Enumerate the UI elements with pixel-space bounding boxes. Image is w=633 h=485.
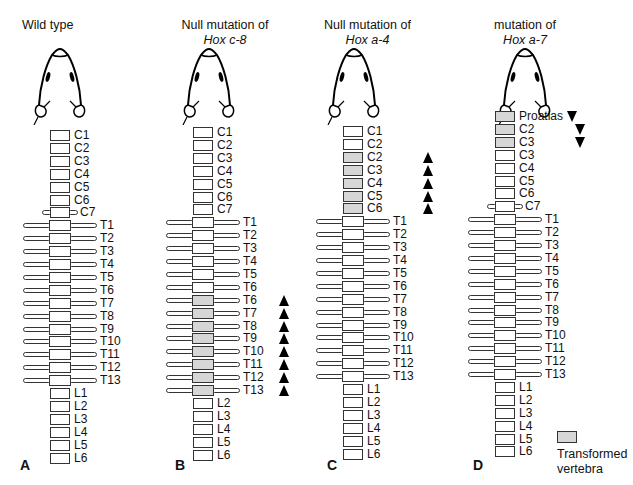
rib-right xyxy=(514,217,542,222)
vertebra-label: T4 xyxy=(393,254,407,266)
vertebra-label: T10 xyxy=(545,329,566,341)
vertebra-thoracic xyxy=(49,298,71,309)
vertebra-thoracic xyxy=(49,272,71,283)
rib-right xyxy=(362,232,390,237)
legend-swatch xyxy=(557,431,577,443)
vertebra-label: T1 xyxy=(243,216,257,228)
vertebra-thoracic xyxy=(192,308,214,319)
panel-title: Null mutation of Hox a-4 xyxy=(300,18,435,48)
vertebra-label: C4 xyxy=(74,168,89,180)
rib-left xyxy=(468,295,496,300)
vertebra-label: C1 xyxy=(217,126,232,138)
vertebra-cervical xyxy=(343,139,363,150)
legend-label-line: Transformed xyxy=(557,447,627,462)
rib-left xyxy=(316,323,344,328)
rib-left xyxy=(23,301,51,306)
arrowhead-up-icon xyxy=(423,203,433,214)
rib-left xyxy=(316,245,344,250)
rib-right xyxy=(514,256,542,261)
vertebra-cervical xyxy=(50,169,70,180)
vertebra-cervical xyxy=(193,127,213,138)
rib-right xyxy=(212,259,240,264)
vertebra-lumbar xyxy=(495,408,515,419)
rib-left xyxy=(468,346,496,351)
vertebra-lumbar xyxy=(193,398,213,409)
vertebra-thoracic xyxy=(494,330,516,341)
vertebra-thoracic xyxy=(494,266,516,277)
rib-right xyxy=(362,348,390,353)
rib-right xyxy=(69,262,97,267)
rib-left xyxy=(166,311,194,316)
vertebra-thoracic xyxy=(342,281,364,292)
vertebra-label: C6 xyxy=(367,202,382,214)
rib-left xyxy=(468,359,496,364)
rib-right xyxy=(69,352,97,357)
rib-left xyxy=(316,335,344,340)
rib-left xyxy=(468,269,496,274)
arrowhead-up-icon xyxy=(279,295,289,306)
rib-left xyxy=(316,361,344,366)
vertebra-label: T11 xyxy=(545,342,565,354)
vertebra-label: T6 xyxy=(243,281,257,293)
rib-left xyxy=(166,233,194,238)
vertebra-lumbar xyxy=(495,382,515,393)
rib-right xyxy=(362,245,390,250)
rib-right xyxy=(362,310,390,315)
vertebra-label: C4 xyxy=(367,177,382,189)
vertebra-thoracic xyxy=(49,349,71,360)
vertebra-cervical xyxy=(343,191,363,202)
arrowhead-down-icon xyxy=(567,111,577,122)
vertebra-lumbar xyxy=(343,436,363,447)
rib-left xyxy=(166,220,194,225)
vertebra-cervical xyxy=(193,166,213,177)
vertebra-label: C5 xyxy=(74,181,89,193)
rib-right xyxy=(212,298,240,303)
vertebra-cervical xyxy=(495,150,515,161)
rib-right xyxy=(514,282,542,287)
rib-right xyxy=(69,249,97,254)
vertebra-label: L6 xyxy=(519,445,532,457)
vertebra-cervical xyxy=(193,140,213,151)
vertebra-label: L3 xyxy=(74,413,87,425)
rib-left xyxy=(166,324,194,329)
panel-letter: B xyxy=(175,457,185,473)
vertebra-lumbar xyxy=(495,446,515,457)
vertebra-thoracic xyxy=(192,217,214,228)
vertebra-label: L4 xyxy=(367,422,380,434)
vertebra-thoracic xyxy=(494,356,516,367)
vertebra-cervical xyxy=(343,126,363,137)
rib-left xyxy=(23,275,51,280)
rib-left xyxy=(468,217,496,222)
vertebra-thoracic xyxy=(49,311,71,322)
rib-right xyxy=(514,333,542,338)
vertebra-thoracic xyxy=(494,214,516,225)
vertebra-label: T6 xyxy=(545,278,559,290)
rib-right xyxy=(514,243,542,248)
vertebra-label: T8 xyxy=(100,310,114,322)
vertebra-cervical xyxy=(50,156,70,167)
vertebra-thoracic xyxy=(192,359,214,370)
vertebra-thoracic xyxy=(342,332,364,343)
vertebra-label: C2 xyxy=(367,151,382,163)
vertebra-thoracic xyxy=(192,321,214,332)
rib-left xyxy=(316,310,344,315)
vertebra-label: C7 xyxy=(217,203,232,215)
rib-right xyxy=(362,258,390,263)
rib-left xyxy=(316,258,344,263)
panel-title: Wild type xyxy=(22,18,73,33)
vertebra-cervical xyxy=(495,188,515,199)
rib-right xyxy=(212,336,240,341)
vertebra-lumbar xyxy=(50,414,70,425)
vertebra-label: T8 xyxy=(393,306,407,318)
vertebra-label: T8 xyxy=(545,304,559,316)
rib-right xyxy=(69,275,97,280)
vertebra-label: C1 xyxy=(74,129,89,141)
panel-title: mutation of Hox a-7 xyxy=(475,18,575,48)
vertebra-label: T1 xyxy=(100,219,114,231)
vertebra-c7 xyxy=(495,201,515,212)
vertebra-label: L5 xyxy=(217,436,230,448)
rib-left xyxy=(316,219,344,224)
rib-right xyxy=(69,378,97,383)
rib-right xyxy=(69,301,97,306)
vertebra-lumbar xyxy=(343,397,363,408)
